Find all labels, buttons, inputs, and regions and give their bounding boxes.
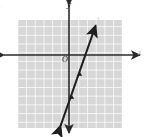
origin-label: O — [62, 56, 68, 64]
graph-canvas — [0, 0, 145, 137]
line-label: l — [97, 17, 99, 25]
coordinate-plane-figure: . y x O — [0, 0, 145, 137]
y-axis-label: y — [67, 0, 71, 9]
grid-area — [18, 20, 122, 128]
x-axis-label: x — [138, 49, 142, 57]
